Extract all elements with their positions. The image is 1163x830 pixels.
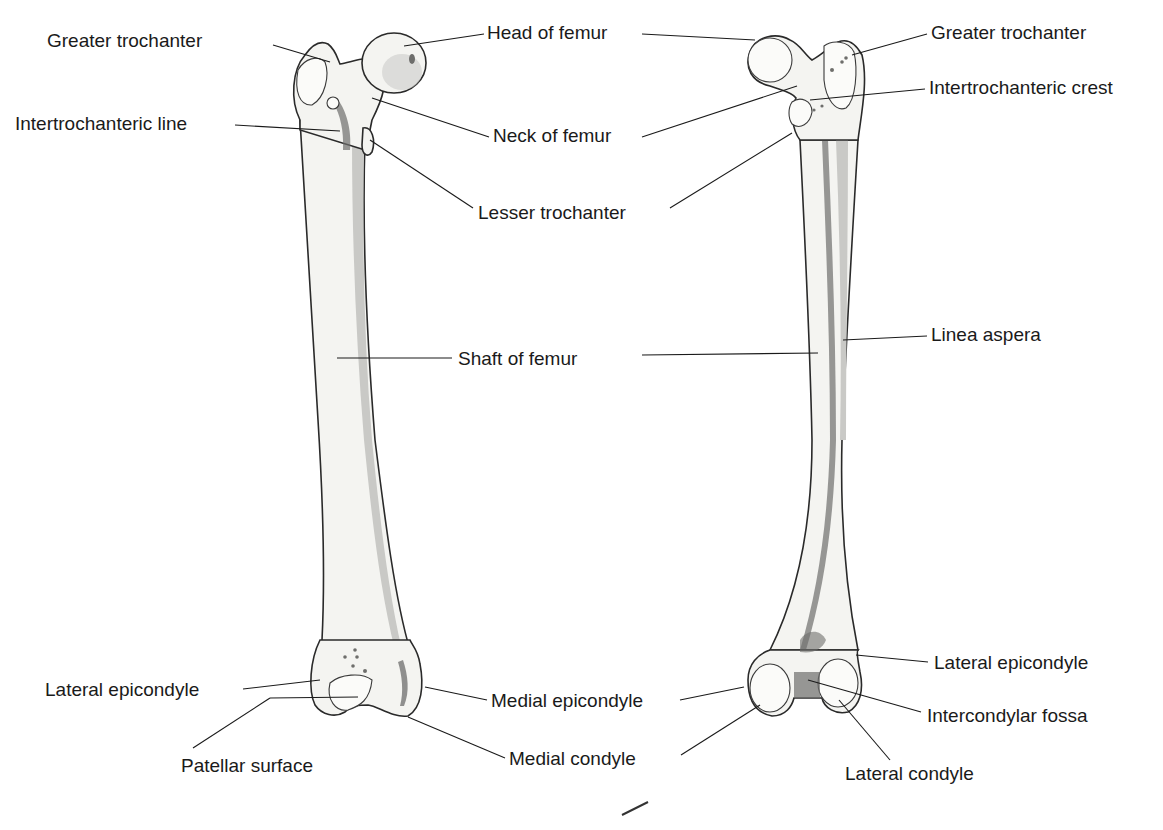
label-greater-trochanter-posterior: Greater trochanter (931, 22, 1086, 44)
label-medial-condyle: Medial condyle (509, 748, 636, 770)
anterior-femur (294, 33, 426, 716)
label-lateral-epicondyle-posterior: Lateral epicondyle (934, 652, 1088, 674)
label-intertrochanteric-line: Intertrochanteric line (15, 113, 187, 135)
label-intertrochanteric-crest: Intertrochanteric crest (929, 77, 1113, 99)
label-linea-aspera: Linea aspera (931, 324, 1041, 346)
label-intercondylar-fossa: Intercondylar fossa (927, 705, 1088, 727)
label-patellar-surface: Patellar surface (181, 755, 313, 777)
label-lateral-epicondyle-anterior: Lateral epicondyle (45, 679, 199, 701)
label-greater-trochanter-anterior: Greater trochanter (47, 30, 202, 52)
stray-mark (622, 802, 648, 815)
posterior-femur (748, 36, 865, 716)
femur-diagram: Greater trochanter Intertrochanteric lin… (0, 0, 1163, 830)
label-neck-of-femur: Neck of femur (493, 125, 611, 147)
label-medial-epicondyle: Medial epicondyle (491, 690, 643, 712)
label-lesser-trochanter: Lesser trochanter (478, 202, 626, 224)
label-lateral-condyle: Lateral condyle (845, 763, 974, 785)
label-head-of-femur: Head of femur (487, 22, 607, 44)
label-shaft-of-femur: Shaft of femur (458, 348, 577, 370)
